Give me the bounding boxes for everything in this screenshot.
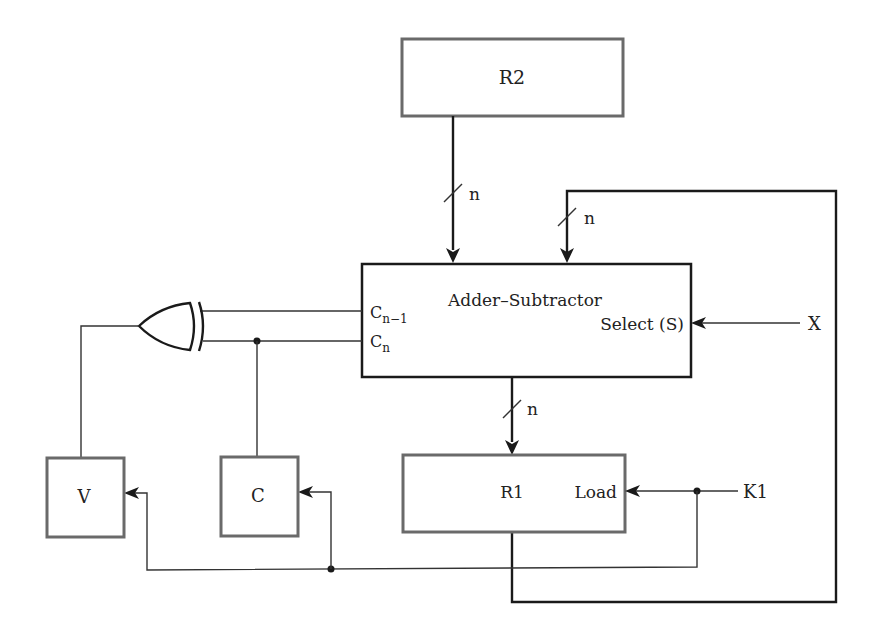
k1-label: K1: [743, 481, 768, 502]
v-flag-register: V: [47, 458, 124, 537]
xor-gate: [81, 302, 362, 458]
port-select: Select (S): [600, 314, 684, 334]
r2-register: R2: [402, 39, 623, 116]
r1-register: R1 Load: [403, 455, 625, 532]
adder-subtractor-label: Adder–Subtractor: [447, 290, 603, 310]
v-label: V: [77, 486, 92, 507]
x-signal: X: [691, 313, 821, 334]
c-label: C: [251, 485, 265, 506]
bus-adder-to-r1: n: [503, 377, 538, 455]
arrowhead-icon: [446, 248, 460, 263]
bus-width-label: n: [584, 208, 595, 228]
xor-input-curve-icon: [199, 302, 203, 351]
adder-subtractor-block: Adder–Subtractor Cn−1 Cn Select (S): [362, 264, 691, 377]
bus-width-label: n: [527, 399, 538, 419]
r2-label: R2: [499, 66, 525, 88]
bus-width-label: n: [469, 184, 480, 204]
adder-subtractor-diagram: R2 n n Adder–Subtractor Cn−1 Cn Select (…: [0, 0, 878, 630]
arrowhead-icon: [505, 440, 519, 455]
r1-label: R1: [500, 482, 524, 502]
feedback-bus: n: [512, 191, 836, 602]
bus-r2-to-adder: n: [444, 116, 480, 263]
xor-body-icon: [139, 303, 194, 350]
x-label: X: [808, 313, 821, 334]
c-flag-register: C: [221, 457, 298, 536]
port-load: Load: [574, 482, 617, 502]
